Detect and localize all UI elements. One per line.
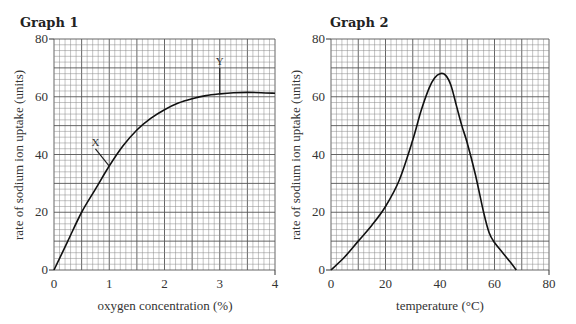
graph-2-y-axis-label: rate of sodium ion uptake (units) xyxy=(288,70,303,240)
y-tick-label: 0 xyxy=(42,262,49,277)
graph-1-grid xyxy=(49,39,275,275)
y-tick-label: 60 xyxy=(312,89,325,104)
graph-1-title: Graph 1 xyxy=(20,15,79,30)
y-tick-label: 20 xyxy=(312,204,325,219)
y-tick-label: 20 xyxy=(35,204,48,219)
graph-1-y-axis-label: rate of sodium ion uptake (units) xyxy=(11,70,26,240)
x-tick-label: 3 xyxy=(217,276,224,291)
x-tick-label: 1 xyxy=(106,276,113,291)
graph-2: Graph 2 020406080020406080 temperature (… xyxy=(288,15,556,313)
graph-1: Graph 1 01234020406080 XY oxygen concent… xyxy=(11,15,279,313)
graph-1-x-axis-label: oxygen concentration (%) xyxy=(97,298,232,313)
y-tick-label: 60 xyxy=(35,89,48,104)
x-tick-label: 4 xyxy=(272,276,279,291)
graph-2-x-axis-label: temperature (°C) xyxy=(396,298,484,313)
x-tick-label: 40 xyxy=(434,276,447,291)
y-tick-label: 80 xyxy=(35,31,48,46)
annotation-label-x: X xyxy=(91,136,99,148)
x-tick-label: 2 xyxy=(161,276,168,291)
x-tick-label: 60 xyxy=(488,276,501,291)
y-tick-label: 0 xyxy=(319,262,326,277)
graph-1-tick-labels: 01234020406080 xyxy=(35,31,279,291)
x-tick-label: 20 xyxy=(379,276,392,291)
graph-1-annotations: XY xyxy=(91,55,223,166)
x-tick-label: 0 xyxy=(51,276,58,291)
x-tick-label: 0 xyxy=(328,276,335,291)
y-tick-label: 40 xyxy=(312,147,325,162)
x-tick-label: 80 xyxy=(543,276,556,291)
graph-2-title: Graph 2 xyxy=(330,15,389,30)
y-tick-label: 40 xyxy=(35,147,48,162)
y-tick-label: 80 xyxy=(312,31,325,46)
annotation-label-y: Y xyxy=(216,55,224,67)
figure-canvas: Graph 1 01234020406080 XY oxygen concent… xyxy=(0,0,576,324)
